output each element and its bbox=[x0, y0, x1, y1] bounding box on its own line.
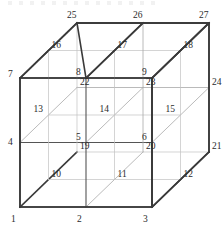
cube-lattice-figure: 1234567891011121314151617181920212223242… bbox=[0, 0, 223, 235]
cube-diagram-svg: 1234567891011121314151617181920212223242… bbox=[0, 0, 223, 235]
scan-artifact bbox=[8, 1, 158, 5]
vertex-label-7: 7 bbox=[8, 69, 13, 79]
vertex-label-3: 3 bbox=[143, 214, 148, 224]
vertex-label-18: 18 bbox=[184, 40, 194, 50]
vertex-label-14: 14 bbox=[100, 104, 110, 114]
edges-group bbox=[20, 23, 209, 207]
vertex-label-25: 25 bbox=[67, 10, 77, 20]
vertex-label-12: 12 bbox=[184, 169, 194, 179]
vertex-label-24: 24 bbox=[212, 77, 222, 87]
vertex-label-17: 17 bbox=[118, 40, 128, 50]
vertex-label-4: 4 bbox=[8, 137, 13, 147]
vertex-label-23: 23 bbox=[146, 77, 156, 87]
vertex-label-16: 16 bbox=[52, 40, 62, 50]
vertex-label-13: 13 bbox=[34, 104, 44, 114]
vertex-label-15: 15 bbox=[166, 104, 176, 114]
vertex-label-22: 22 bbox=[80, 77, 90, 87]
vertex-label-1: 1 bbox=[11, 214, 16, 224]
vertex-label-19: 19 bbox=[80, 141, 90, 151]
vertex-label-26: 26 bbox=[133, 10, 143, 20]
vertex-label-10: 10 bbox=[52, 169, 62, 179]
vertex-labels-group: 1234567891011121314151617181920212223242… bbox=[8, 10, 222, 224]
vertex-label-6: 6 bbox=[142, 132, 147, 142]
vertex-label-20: 20 bbox=[146, 141, 156, 151]
vertex-label-21: 21 bbox=[212, 141, 222, 151]
vertex-label-9: 9 bbox=[142, 67, 147, 77]
vertex-label-5: 5 bbox=[76, 132, 81, 142]
vertex-label-11: 11 bbox=[118, 169, 127, 179]
vertex-label-27: 27 bbox=[199, 10, 209, 20]
vertex-label-2: 2 bbox=[77, 214, 82, 224]
vertex-label-8: 8 bbox=[76, 67, 81, 77]
